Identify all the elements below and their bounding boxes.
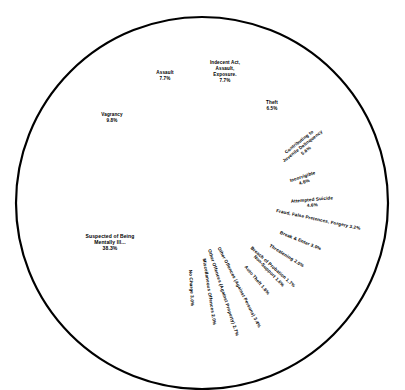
pie-slice-label-line: 6.5% (267, 106, 278, 111)
pie-slice-label-line: Indecent Act, (210, 60, 240, 65)
pie-slice-label: Theft6.5% (266, 100, 278, 111)
pie-slice-label-line: 7.7% (220, 78, 231, 83)
pie-slice-label-line: Assault (156, 70, 174, 75)
pie-slice-label-line: 4.6% (307, 202, 318, 208)
pie-slice-label-line: Exposure. (213, 72, 236, 77)
pie-slice-label-line: Vagrancy (101, 112, 123, 117)
pie-slice-label-line: 38.3% (103, 245, 118, 251)
pie-slice-label-line: Theft (266, 100, 278, 105)
pie-slice-label-line: 9.8% (107, 118, 118, 123)
pie-outer-circle (16, 17, 388, 389)
pie-slice-label-line: Assault, (216, 66, 235, 71)
pie-chart-svg: Suspected of BeingMentally Ill...38.3%Va… (0, 0, 405, 390)
pie-slice-label-line: 7.7% (160, 76, 171, 81)
pie-chart-figure: Suspected of BeingMentally Ill...38.3%Va… (0, 0, 405, 390)
